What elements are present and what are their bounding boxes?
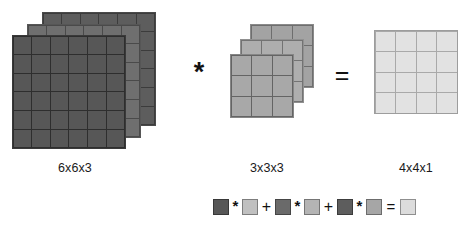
- output-volume-label: 4x4x1: [375, 160, 457, 176]
- output-front-cell: [416, 51, 438, 73]
- legend-equals-icon: =: [382, 199, 400, 215]
- output-front-cell: [416, 92, 438, 114]
- output-front-cell: [395, 31, 417, 53]
- legend-kernel-swatch: [304, 199, 320, 215]
- output-front-cell: [395, 51, 417, 73]
- output-front-cell: [416, 72, 438, 94]
- convolution-diagram: * = 6x6x3 3x3x3 4x4x1 *+*+*=: [0, 0, 469, 231]
- output-front-cell: [395, 92, 417, 114]
- kernel-volume-label: 3x3x3: [231, 160, 303, 176]
- legend-kernel-swatch: [366, 199, 382, 215]
- legend-input-swatch: [213, 199, 229, 215]
- legend-equation: *+*+*=: [213, 196, 416, 218]
- legend-input-swatch: [275, 199, 291, 215]
- output-front-cell: [395, 72, 417, 94]
- input-volume-label: 6x6x3: [19, 160, 131, 176]
- legend-plus-icon: +: [320, 199, 337, 215]
- output-front-cell: [436, 72, 458, 94]
- legend-input-swatch: [337, 199, 353, 215]
- output-layer-front: [375, 31, 457, 113]
- output-front-cell: [436, 92, 458, 114]
- output-volume-4x4x1: [0, 0, 469, 160]
- output-front-cell: [416, 31, 438, 53]
- output-front-cell: [375, 51, 397, 73]
- legend-multiply-icon: *: [229, 198, 242, 214]
- output-front-cell: [436, 31, 458, 53]
- output-front-cell: [375, 92, 397, 114]
- legend-multiply-icon: *: [353, 198, 366, 214]
- legend-kernel-swatch: [242, 199, 258, 215]
- legend-result-swatch: [400, 199, 416, 215]
- output-front-cell: [436, 51, 458, 73]
- output-front-cell: [375, 31, 397, 53]
- legend-plus-icon: +: [258, 199, 275, 215]
- output-front-cell: [375, 72, 397, 94]
- legend-multiply-icon: *: [291, 198, 304, 214]
